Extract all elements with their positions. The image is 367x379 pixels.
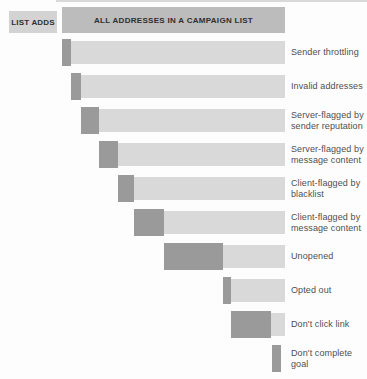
remaining-bar xyxy=(231,279,285,302)
stage-label: Don't complete goal xyxy=(291,345,365,372)
loss-segment xyxy=(62,39,71,66)
loss-segment xyxy=(164,243,223,270)
loss-segment xyxy=(81,107,99,134)
remaining-bar xyxy=(118,143,285,166)
stage-label: Invalid addresses xyxy=(291,73,365,100)
funnel-row: Server-flagged bysender reputation xyxy=(0,107,367,134)
stage-label: Server-flagged bymessage content xyxy=(291,141,365,168)
loss-segment xyxy=(272,345,281,372)
stage-label: Client-flagged bymessage content xyxy=(291,209,365,236)
stage-label: Opted out xyxy=(291,277,365,304)
funnel-row: Sender throttling xyxy=(0,39,367,66)
remaining-bar xyxy=(71,41,285,64)
loss-segment xyxy=(99,141,118,168)
loss-segment xyxy=(134,209,164,236)
funnel-row: Client-flagged byblacklist xyxy=(0,175,367,202)
funnel-row: Don't complete goal xyxy=(0,345,367,372)
remaining-bar xyxy=(81,75,285,98)
loss-segment xyxy=(231,311,271,338)
stage-label: Sender throttling xyxy=(291,39,365,66)
remaining-bar xyxy=(223,245,285,268)
funnel-row: Client-flagged bymessage content xyxy=(0,209,367,236)
funnel-row: Opted out xyxy=(0,277,367,304)
funnel-rows: Sender throttlingInvalid addressesServer… xyxy=(0,0,367,379)
funnel-row: Don't click link xyxy=(0,311,367,338)
stage-label: Unopened xyxy=(291,243,365,270)
funnel-row: Invalid addresses xyxy=(0,73,367,100)
stage-label: Server-flagged bysender reputation xyxy=(291,107,365,134)
loss-segment xyxy=(71,73,81,100)
loss-segment xyxy=(118,175,134,202)
remaining-bar xyxy=(134,177,285,200)
remaining-bar xyxy=(99,109,285,132)
funnel-row: Unopened xyxy=(0,243,367,270)
stage-label: Client-flagged byblacklist xyxy=(291,175,365,202)
remaining-bar xyxy=(271,313,285,336)
attrition-funnel-chart: LIST ADDS ALL ADDRESSES IN A CAMPAIGN LI… xyxy=(0,0,367,379)
stage-label: Don't click link xyxy=(291,311,365,338)
loss-segment xyxy=(223,277,231,304)
funnel-row: Server-flagged bymessage content xyxy=(0,141,367,168)
remaining-bar xyxy=(164,211,285,234)
